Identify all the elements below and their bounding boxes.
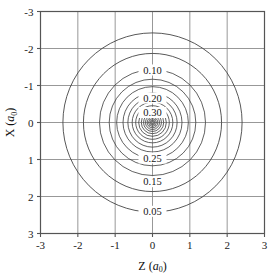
x-tick-label: 0 (150, 239, 156, 251)
y-axis-tick-labels: 3210-1-2-3 (24, 6, 34, 240)
x-tick-label: -3 (36, 239, 46, 251)
contour-level-label: 0.30 (143, 107, 161, 118)
y-tick-label: 0 (28, 117, 34, 129)
y-tick-label: -3 (24, 6, 34, 18)
plot-canvas: 0.100.200.300.250.150.05 -3-2-10123 3210… (0, 0, 271, 279)
contour-level-label: 0.05 (143, 206, 161, 217)
y-tick-label: 3 (28, 228, 34, 240)
contour-plot-figure: 0.100.200.300.250.150.05 -3-2-10123 3210… (0, 0, 271, 279)
x-axis-title: Z (a0) (138, 259, 166, 275)
y-tick-label: 1 (28, 154, 34, 166)
x-tick-label: -2 (73, 239, 82, 251)
y-axis-title-text-variable: X (3, 128, 17, 137)
x-tick-label: -1 (111, 239, 120, 251)
grid-lines (41, 12, 265, 234)
x-axis-tick-labels: -3-2-10123 (36, 239, 268, 251)
contour-level-label: 0.20 (143, 93, 161, 104)
y-axis-title-text-paren-close: ) (3, 108, 17, 112)
x-axis-title-text: Z (a0) (138, 259, 166, 275)
contour-level-label: 0.10 (143, 65, 161, 76)
y-tick-label: -1 (24, 80, 33, 92)
y-axis-title-text: X (a0) (3, 108, 19, 138)
x-axis-title-text-paren-close: ) (163, 259, 167, 273)
y-tick-label: 2 (28, 191, 34, 203)
x-tick-label: 3 (262, 239, 268, 251)
x-tick-label: 1 (187, 239, 193, 251)
x-tick-label: 2 (224, 239, 230, 251)
contour-level-label: 0.15 (143, 176, 161, 187)
contour-level-label: 0.25 (143, 153, 161, 164)
y-axis-title: X (a0) (3, 108, 19, 138)
y-tick-label: -2 (24, 43, 33, 55)
x-axis-title-text-variable: Z (138, 259, 145, 273)
